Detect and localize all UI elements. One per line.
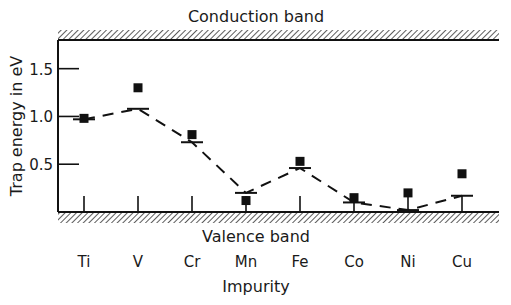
x-tick-label: V <box>133 253 144 271</box>
x-tick-label: Ti <box>77 253 91 271</box>
y-axis-label: Trap energy in eV <box>7 56 26 197</box>
x-axis-label: Impurity <box>222 277 289 296</box>
measured-marker <box>296 157 305 166</box>
x-tick-label: Co <box>344 253 364 271</box>
x-tick-label: Cr <box>184 253 201 271</box>
x-tick-label: Fe <box>291 253 308 271</box>
top-band-label: Conduction band <box>188 7 324 26</box>
measured-marker <box>134 83 143 92</box>
measured-marker <box>80 114 89 123</box>
measured-marker <box>458 169 467 178</box>
y-tick-label: 1.0 <box>29 108 53 126</box>
x-tick-label: Cu <box>452 253 472 271</box>
valence-band-hatch <box>58 212 499 223</box>
measured-markers <box>80 83 467 205</box>
x-tick-label: Mn <box>235 253 257 271</box>
conduction-band-hatch <box>58 30 499 40</box>
measured-marker <box>404 188 413 197</box>
x-tick-label: Ni <box>400 253 415 271</box>
bottom-band-label: Valence band <box>202 227 310 246</box>
y-tick-label: 0.5 <box>29 156 53 174</box>
trap-energy-chart: Conduction band Valence band Impurity Tr… <box>0 0 511 305</box>
measured-marker <box>242 196 251 205</box>
measured-marker <box>350 193 359 202</box>
level-bars <box>73 109 473 210</box>
y-ticks: 0.51.01.5 <box>29 61 79 175</box>
y-tick-label: 1.5 <box>29 61 53 79</box>
measured-marker <box>188 130 197 139</box>
